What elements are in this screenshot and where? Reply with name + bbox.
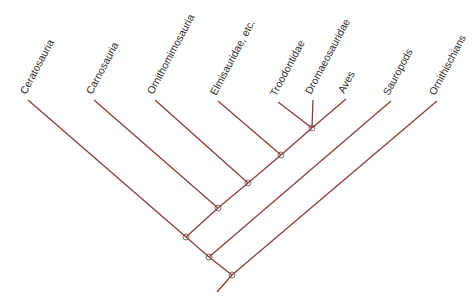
branch-to-node-omi xyxy=(218,183,248,208)
branch-to-dromaeosauridae xyxy=(312,100,313,128)
cladogram: CeratosauriaCarnosauriaOrnithomimosauria… xyxy=(0,0,476,308)
branch-to-node-mani xyxy=(281,128,312,155)
clade-node xyxy=(309,125,315,131)
clade-node xyxy=(229,272,235,278)
branch-to-node-sau xyxy=(209,257,232,275)
clade-node xyxy=(278,152,284,158)
branch-to-sauropods xyxy=(209,101,391,257)
taxon-label-elmisauridae: Elmisauridae, etc. xyxy=(207,18,257,97)
branch-to-node-cer xyxy=(186,237,209,257)
clade-node xyxy=(245,180,251,186)
taxon-label-troodontidae: Troodontidae xyxy=(267,38,307,98)
taxon-label-ceratosauria: Ceratosauria xyxy=(17,37,56,96)
branch-to-node-car xyxy=(186,208,218,237)
taxon-label-aves: Aves xyxy=(335,69,356,95)
branch-to-troodontidae xyxy=(278,102,312,128)
clade-node xyxy=(206,254,212,260)
branch-to-ornithischians xyxy=(232,101,437,275)
taxon-label-carnosauria: Carnosauria xyxy=(83,40,121,96)
clade-node xyxy=(215,205,221,211)
branch-to-ornithomimosauria xyxy=(155,100,248,183)
branch-to-carnosauria xyxy=(94,100,218,208)
clade-node xyxy=(183,234,189,240)
taxon-label-ornithomimosauria: Ornithomimosauria xyxy=(144,12,196,96)
branch-to-ceratosauria xyxy=(28,100,186,237)
branch-to-aves xyxy=(312,99,346,128)
taxon-label-sauropods: Sauropods xyxy=(380,46,414,96)
taxon-label-ornithischians: Ornithischians xyxy=(426,33,468,97)
branch-to-elmisauridae xyxy=(218,101,281,155)
branch-to-node-elm xyxy=(248,155,281,183)
